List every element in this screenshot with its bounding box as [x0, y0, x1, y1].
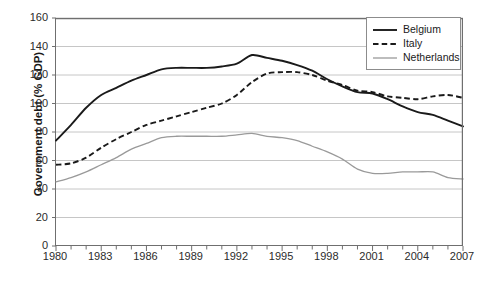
chart-container: Government debt (% GDP) 0204060801001201… [0, 0, 480, 285]
y-tick-label: 80 [12, 125, 48, 137]
y-tick-label: 100 [12, 97, 48, 109]
x-tick-label: 1983 [88, 250, 112, 262]
series-line-italy [56, 72, 463, 165]
x-tick-label: 1992 [224, 250, 248, 262]
y-tick-label: 60 [12, 154, 48, 166]
x-tick-label: 1995 [269, 250, 293, 262]
legend-swatch-dashed-black-line [372, 39, 398, 49]
x-tick-label: 1980 [43, 250, 67, 262]
legend: Belgium Italy Netherlands [366, 17, 461, 70]
x-tick-label: 1986 [133, 250, 157, 262]
legend-label-belgium: Belgium [403, 24, 441, 35]
x-tick-label: 2007 [450, 250, 474, 262]
series-line-netherlands [56, 133, 463, 181]
legend-swatch-solid-gray-line [372, 53, 398, 63]
y-tick-label: 120 [12, 68, 48, 80]
legend-item-belgium: Belgium [372, 23, 455, 36]
y-tick-label: 140 [12, 40, 48, 52]
y-tick-label: 20 [12, 211, 48, 223]
legend-item-italy: Italy [372, 37, 455, 50]
x-tick-label: 1989 [178, 250, 202, 262]
legend-label-italy: Italy [403, 38, 422, 49]
x-tick-label: 1998 [314, 250, 338, 262]
legend-item-netherlands: Netherlands [372, 51, 455, 64]
x-tick-label: 2004 [405, 250, 429, 262]
x-axis-tick-labels: 1980198319861989199219951998200120042007 [0, 250, 480, 270]
y-tick-label: 160 [12, 11, 48, 23]
y-tick-label: 40 [12, 182, 48, 194]
legend-label-netherlands: Netherlands [403, 52, 460, 63]
legend-swatch-solid-black-line [372, 25, 398, 35]
x-tick-label: 2001 [359, 250, 383, 262]
